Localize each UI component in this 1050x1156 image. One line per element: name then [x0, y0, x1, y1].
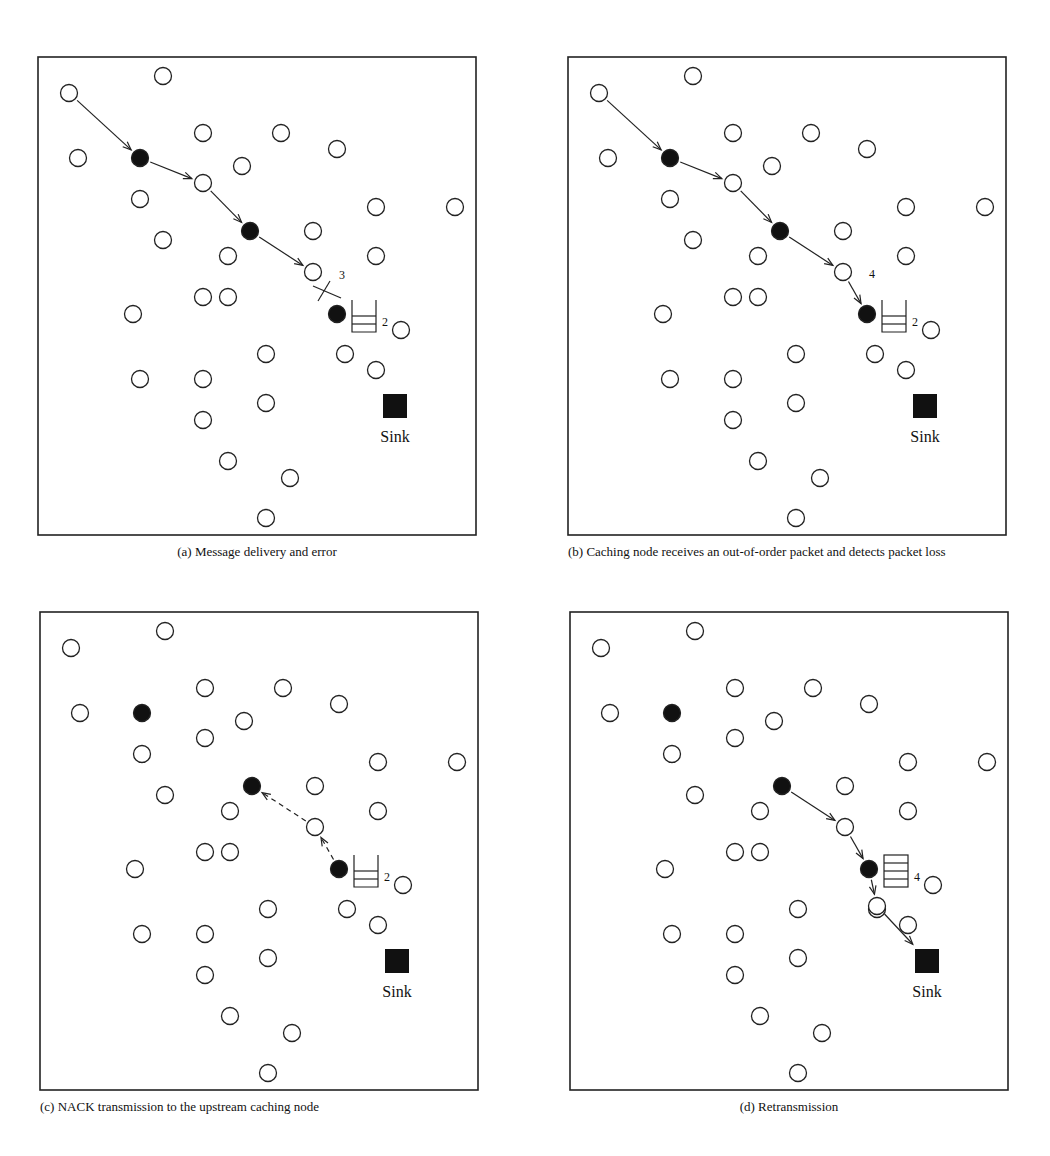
sensor-node	[664, 926, 681, 943]
sensor-node	[766, 713, 783, 730]
cache-queue-icon: 4	[884, 855, 920, 887]
sensor-node	[752, 844, 769, 861]
sensor-node	[727, 730, 744, 747]
sensor-node	[869, 898, 886, 915]
sensor-node	[602, 705, 619, 722]
sensor-node	[657, 861, 674, 878]
sensor-node	[979, 754, 996, 771]
sensor-node	[900, 803, 917, 820]
sensor-node	[814, 1025, 831, 1042]
arrow	[869, 880, 876, 895]
sensor-node	[837, 778, 854, 795]
caption-d: (d) Retransmission	[570, 1098, 1008, 1115]
sensor-node	[790, 901, 807, 918]
sensor-node	[790, 1065, 807, 1082]
sensor-node	[790, 950, 807, 967]
sensor-node	[727, 680, 744, 697]
sensor-node	[727, 967, 744, 984]
arrow	[850, 837, 863, 859]
sensor-node	[664, 746, 681, 763]
caching-node	[664, 705, 681, 722]
sensor-node	[837, 819, 854, 836]
sensor-node	[900, 754, 917, 771]
sensor-node	[805, 680, 822, 697]
sensor-node	[727, 844, 744, 861]
sink-icon	[915, 949, 939, 973]
arrow	[791, 792, 835, 820]
sensor-node	[925, 877, 942, 894]
sensor-node	[752, 1008, 769, 1025]
caching-node	[861, 861, 878, 878]
sensor-node	[727, 926, 744, 943]
sensor-node	[687, 787, 704, 804]
sensor-node	[861, 696, 878, 713]
sensor-node	[752, 803, 769, 820]
sensor-node	[900, 917, 917, 934]
sensor-node	[593, 640, 610, 657]
sink-label: Sink	[912, 983, 941, 1000]
panel-frame	[570, 612, 1008, 1090]
panel-d-diagram: Sink4	[0, 0, 1050, 1156]
queue-count-label: 4	[914, 870, 920, 884]
caching-node	[774, 778, 791, 795]
sensor-node	[687, 623, 704, 640]
